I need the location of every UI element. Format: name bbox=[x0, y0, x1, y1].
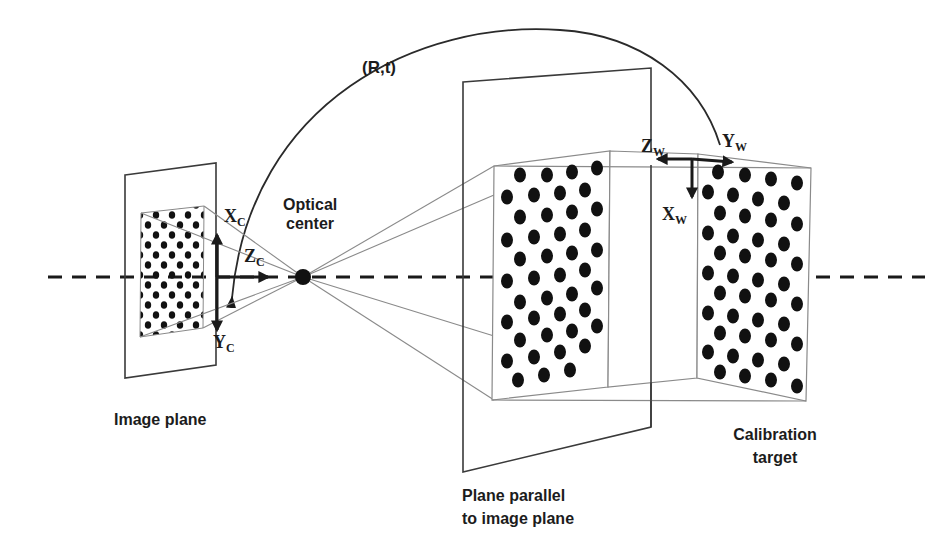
optical-center-point bbox=[295, 269, 311, 285]
camera-z-label: ZC bbox=[244, 246, 265, 269]
parallel-plane-label-2: to image plane bbox=[462, 510, 574, 527]
optical-center-label-2: center bbox=[286, 215, 334, 232]
parallel-plane-label-1: Plane parallel bbox=[462, 487, 565, 504]
camera-x-label: XC bbox=[224, 206, 246, 229]
transform-label: (R,t) bbox=[362, 58, 396, 77]
camera-y-label: YC bbox=[213, 332, 235, 355]
camera-calibration-diagram: (R,t) XC ZC YC Optical center bbox=[0, 0, 937, 555]
optical-center-label-1: Optical bbox=[283, 196, 337, 213]
calibration-target-label-1: Calibration bbox=[733, 426, 817, 443]
calibration-target-label-2: target bbox=[753, 449, 798, 466]
world-y-label: YW bbox=[722, 131, 747, 154]
image-plane-label: Image plane bbox=[114, 411, 207, 428]
world-z-label: ZW bbox=[641, 136, 665, 159]
